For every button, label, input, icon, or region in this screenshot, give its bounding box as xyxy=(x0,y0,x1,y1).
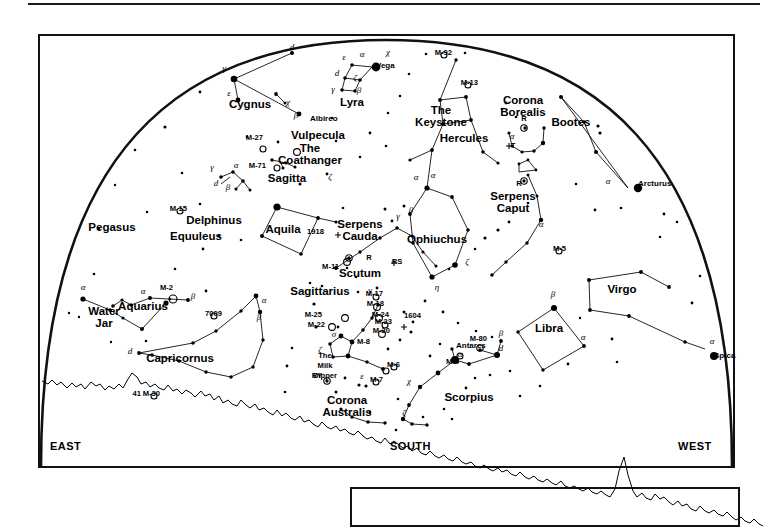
greek-letter-label-17: α xyxy=(81,282,86,292)
greek-letter-label-16: ζ xyxy=(328,172,333,182)
greek-letter-label-31: σ xyxy=(332,329,337,339)
dso-label-1604: 1604 xyxy=(404,311,422,320)
constellation-label-scutum: Scutum xyxy=(339,267,381,279)
greek-letter-label-2: ε xyxy=(227,88,231,98)
dso-label-1918: 1918 xyxy=(307,227,324,236)
dso-label-m-80: M-80 xyxy=(470,334,487,343)
greek-letter-label-3: χ xyxy=(285,97,291,107)
greek-letter-label-18: α xyxy=(141,286,146,296)
dso-label-7009: 7009 xyxy=(205,309,222,318)
greek-letter-label-27: η xyxy=(435,282,440,292)
greek-letter-label-13: α xyxy=(234,160,239,170)
greek-letter-label-25: γ xyxy=(396,211,400,221)
greek-letter-label-8: ζ xyxy=(353,73,358,83)
constellation-label-sagitta: Sagitta xyxy=(268,172,307,184)
greek-letter-label-11: χ xyxy=(385,47,391,57)
constellation-label-lyra: Lyra xyxy=(340,96,364,108)
dso-label-m-18: M-18 xyxy=(367,299,384,308)
variable-star-label-1: T xyxy=(511,141,516,150)
dso-label-m-11: M-11 xyxy=(322,262,340,271)
greek-letter-label-41: α xyxy=(710,336,715,346)
constellation-label-capricornus: Capricornus xyxy=(146,352,214,364)
dso-label-m-27: M-27 xyxy=(246,133,263,142)
constellation-label-vulpecula: Vulpecula xyxy=(291,129,345,141)
constellation-label-scorpius: Scorpius xyxy=(444,391,493,403)
cardinal-west: WEST xyxy=(678,440,712,452)
greek-letter-label-20: α xyxy=(262,295,267,305)
greek-letter-label-26: α xyxy=(431,170,436,180)
dso-label-m-2: M-2 xyxy=(160,283,173,292)
label-the-coathanger-line1: The xyxy=(300,142,320,154)
dso-label-m-5: M-5 xyxy=(553,244,567,253)
greek-letter-label-40: α xyxy=(581,332,586,342)
dso-label-m-30: M-30 xyxy=(143,389,160,398)
label-the-keystone-line2: Keystone xyxy=(415,116,467,128)
label-serpens-caput-line1: Serpens xyxy=(490,190,535,202)
greek-letter-label-0: d xyxy=(290,42,295,52)
dso-label-m-22: M-22 xyxy=(308,320,325,329)
greek-letter-label-42: α xyxy=(606,176,611,186)
label-corona-australis-line2: Australis xyxy=(322,406,371,418)
greek-letter-label-24: β xyxy=(408,205,414,215)
milk-dipper-line2: Milk xyxy=(318,361,334,370)
variable-star-label-4: RS xyxy=(392,257,403,266)
milk-dipper-line3: Dipper xyxy=(313,371,337,380)
constellation-label-aquila: Aquila xyxy=(265,223,301,235)
constellation-label-sagittarius: Sagittarius xyxy=(290,285,349,297)
greek-letter-label-6: α xyxy=(360,49,365,59)
dso-label-m-25: M-25 xyxy=(305,310,323,319)
star-name-vega: Vega xyxy=(376,61,395,70)
star-name-arcturus: Arcturus xyxy=(638,179,672,188)
greek-letter-label-35: β xyxy=(498,328,504,338)
dso-label-m-23: M-23 xyxy=(375,317,392,326)
dso-label-m-71: M-71 xyxy=(249,161,267,170)
greek-letter-label-23: α xyxy=(414,172,419,182)
sky-dome-arc xyxy=(41,40,732,466)
constellation-label-bootes: Bootes xyxy=(552,116,591,128)
greek-letter-label-21: β xyxy=(256,312,262,322)
greek-letter-label-15: β xyxy=(225,182,231,192)
greek-letter-label-36: d xyxy=(499,343,504,353)
label-serpens-cauda-line2: Cauda xyxy=(342,230,378,242)
label-the-coathanger-line2: Coathanger xyxy=(278,154,342,166)
greek-letter-label-1: γ xyxy=(222,63,226,73)
dso-label-m-6: M-6 xyxy=(387,360,400,369)
star-name-albireo: Albireo xyxy=(310,114,338,123)
cardinal-south: SOUTH xyxy=(390,440,431,452)
label-water-jar-line2: Jar xyxy=(95,317,113,329)
greek-letter-label-12: γ xyxy=(210,162,214,172)
dso-label-m-7: M-7 xyxy=(370,375,383,384)
dso-label-m-8: M-8 xyxy=(357,337,370,346)
greek-letter-label-7: d xyxy=(335,68,340,78)
constellation-label-cygnus: Cygnus xyxy=(229,98,271,110)
label-corona-australis-line1: Corona xyxy=(327,394,368,406)
label-water-jar-line1: Water xyxy=(88,305,120,317)
label-serpens-cauda-line1: Serpens xyxy=(337,218,382,230)
greek-letter-label-39: β xyxy=(550,289,556,299)
dso-label-m-92: M-92 xyxy=(435,48,452,57)
greek-letter-label-22: d xyxy=(128,346,133,356)
greek-letter-label-34: α xyxy=(458,349,463,359)
label-the-keystone-line1: The xyxy=(431,104,451,116)
milk-dipper-line1: The xyxy=(318,351,332,360)
constellation-label-ophiuchus: Ophiuchus xyxy=(407,233,467,245)
greek-letter-label-19: β xyxy=(190,291,196,301)
star-name-spica: Spica xyxy=(714,351,736,360)
variable-star-label-2: R xyxy=(516,179,522,188)
dso-label-m-20: M-20 xyxy=(373,326,390,335)
greek-letter-label-5: ε xyxy=(342,52,346,62)
greek-letter-label-4: β xyxy=(293,110,299,120)
constellation-label-pegasus: Pegasus xyxy=(88,221,135,233)
constellation-label-libra: Libra xyxy=(535,322,564,334)
greek-letter-label-10: β xyxy=(356,85,362,95)
cardinal-east: EAST xyxy=(50,440,81,452)
greek-letter-label-30: γ xyxy=(368,285,372,295)
constellation-label-delphinus: Delphinus xyxy=(186,214,242,226)
constellation-label-aquarius: Aquarius xyxy=(118,300,168,312)
greek-letter-label-43: α xyxy=(510,131,515,141)
greek-letter-label-33: ε xyxy=(360,371,364,381)
variable-star-label-3: R xyxy=(366,253,372,262)
constellation-label-virgo: Virgo xyxy=(607,283,636,295)
